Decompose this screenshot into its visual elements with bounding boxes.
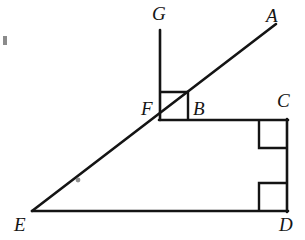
vertex-label-C: C	[277, 91, 290, 110]
vertex-label-E: E	[14, 215, 26, 234]
figure-canvas	[0, 0, 305, 240]
vertex-label-A: A	[266, 6, 278, 25]
geometry-figure: A G F B C D E	[0, 0, 305, 240]
vertex-label-G: G	[152, 4, 166, 23]
ray-E-to-A	[32, 24, 276, 211]
right-angle-at-D-icon	[259, 183, 287, 211]
right-angle-at-C-icon	[259, 120, 287, 148]
vertex-label-F: F	[141, 99, 153, 118]
page-edge-speck-icon	[3, 36, 7, 45]
tick-on-ray-EA-icon	[76, 178, 81, 183]
vertex-label-D: D	[279, 215, 293, 234]
vertex-label-B: B	[193, 99, 205, 118]
